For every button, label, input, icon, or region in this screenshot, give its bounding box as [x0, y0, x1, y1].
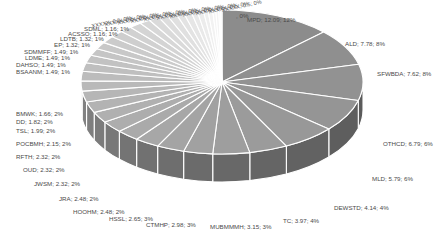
slice-label: POCBMH; 2.15; 2% [16, 140, 72, 147]
pie-chart: XXXXX; 0.5; 0%XXXXX; 0.5; 0%XXXXX; 0.5; … [0, 0, 440, 241]
slice-label: MPD; 12.09; 12% [247, 16, 296, 23]
slice-label: TC; 3.97; 4% [283, 217, 320, 224]
slice-label: DD; 1.82; 2% [16, 118, 53, 125]
slice-label: HOOHM; 2.48; 2% [73, 208, 125, 215]
slice-label: SDML; 1.16; 1% [84, 25, 130, 32]
slice-label: MLD; 5.79; 6% [372, 175, 413, 182]
slice-label: LDME; 1.49; 1% [25, 54, 71, 61]
slice-label: SFWBDA; 7.62; 8% [377, 70, 432, 77]
slice-label: SDMMFF; 1.49; 1% [24, 48, 79, 55]
slice-label: DEWSTD; 4.14; 4% [334, 204, 389, 211]
slice-label: ALD; 7.78; 8% [345, 40, 385, 47]
slice-label: EP; 1.32; 1% [54, 41, 91, 48]
slice-label: DAHSO; 1.49; 1% [16, 61, 66, 68]
slice-label: BMWK; 1.66; 2% [16, 110, 64, 117]
slice-label: JRA; 2.48; 2% [59, 195, 99, 202]
pie-slice-side [213, 153, 250, 182]
slice-label: TSL; 1.99; 2% [16, 127, 56, 134]
slice-label: MUBMMMH; 3.15; 3% [210, 223, 272, 230]
slice-label: CTMHP; 2.98; 3% [146, 221, 196, 228]
slice-label: OUD; 2.32; 2% [23, 166, 65, 173]
pie-slice-side [184, 151, 213, 182]
slice-label: RFTH; 2.32; 2% [16, 153, 61, 160]
slice-label: HSSL; 2.65; 3% [109, 215, 154, 222]
slice-label: BSAANM; 1.49; 1% [16, 68, 70, 75]
slice-label: OTHCD; 6.79; 6% [383, 140, 433, 147]
slice-label: JWSM; 2.32; 2% [34, 180, 81, 187]
